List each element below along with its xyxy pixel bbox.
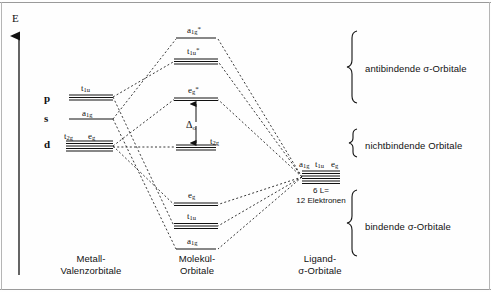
metal-level-p-t1u (69, 95, 113, 100)
metal-shell-label-s: s (44, 112, 48, 124)
caption-line-2: σ-Orbitale (275, 265, 365, 277)
term-sub: 1g (191, 239, 198, 246)
metal-term-t2g: t2g (64, 131, 73, 141)
column-caption-metal: Metall- Valenzorbitale (30, 253, 152, 277)
mo-term-t2g: t2g (210, 136, 219, 146)
mo-term-t1u-bonding: t1u (187, 211, 196, 221)
caption-line-1: Molekül- (157, 253, 237, 265)
metal-level-d-t2g-eg (66, 141, 113, 151)
correlation-lines-metal (113, 39, 176, 249)
caption-line-1: Ligand- (275, 253, 365, 265)
term-sub: g (92, 134, 95, 141)
ligand-term-eg: eg (331, 159, 338, 169)
term-sub: 1u (84, 86, 91, 93)
term-sup: * (196, 46, 200, 54)
mo-term-eg-bonding: eg (188, 190, 195, 200)
term-sub: 1u (318, 162, 325, 169)
caption-line-2: Orbitale (157, 265, 237, 277)
metal-shell-label-d: d (44, 138, 50, 150)
column-caption-ligand: Ligand- σ-Orbitale (275, 253, 365, 277)
metal-term-a1g: a1g (82, 108, 93, 118)
delta-o-label: Δo (186, 119, 196, 132)
correlation-lines-ligand (218, 39, 302, 249)
mo-term-a1g-bonding: a1g (187, 236, 198, 246)
column-caption-molecule: Molekül- Orbitale (157, 253, 237, 277)
mo-diagram-figure: E p s d t1u a1g t2g eg a1g* t1u* eg* t2g… (0, 0, 491, 292)
mo-term-eg-star: eg* (188, 85, 199, 95)
mo-term-t1u-star: t1u* (187, 46, 200, 56)
mo-level-eg-star (174, 98, 218, 101)
metal-term-t1u: t1u (81, 83, 90, 93)
term-sup: * (195, 85, 199, 93)
mo-level-t1u-bonding (174, 224, 218, 229)
ligand-electron-count: 6 L= 12 Elektronen (288, 186, 354, 205)
bracket-label-antibonding: antibindende σ-Orbitale (365, 63, 467, 74)
ligand-term-t1u: t1u (315, 159, 324, 169)
caption-line-1: Metall- (30, 253, 152, 265)
term-sub: 1g (303, 162, 310, 169)
ligand-term-a1g: a1g (299, 159, 310, 169)
metal-term-eg: eg (88, 131, 95, 141)
term-sub: 2g (67, 134, 74, 141)
bracket-label-bonding: bindende σ-Orbitale (365, 221, 451, 232)
bracket-antibonding (347, 31, 357, 103)
term-sub: g (192, 193, 195, 200)
term-sup: * (198, 25, 202, 33)
term-sub: 1g (86, 111, 93, 118)
ligand-sigma-levels (302, 171, 340, 184)
ligand-count-line2: 12 Elektronen (288, 196, 354, 206)
bracket-label-nonbonding: nichtbindende Orbitale (365, 140, 462, 151)
mo-level-t1u-star (174, 59, 218, 64)
term-sub: g (335, 162, 338, 169)
energy-axis-label: E (12, 12, 19, 24)
mo-level-eg-bonding (174, 203, 218, 206)
metal-shell-label-p: p (44, 92, 50, 104)
ligand-count-line1: 6 L= (288, 186, 354, 196)
caption-line-2: Valenzorbitale (30, 265, 152, 277)
term-sub: 2g (213, 139, 220, 146)
mo-term-a1g-star: a1g* (187, 25, 201, 35)
term-sub: 1u (190, 214, 197, 221)
bracket-nonbonding (349, 129, 357, 157)
delta-subscript: o (192, 124, 196, 132)
